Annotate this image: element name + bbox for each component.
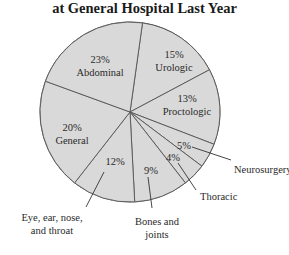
slice-percent-bones-and-joints: 9% xyxy=(144,165,158,176)
slice-percent-general: 20% xyxy=(62,122,82,133)
slice-percent-neurosurgery: 5% xyxy=(177,140,191,151)
slice-label-eye-ear-nose-and-throat: Eye, ear, nose, xyxy=(21,212,82,223)
slice-percent-urologic: 15% xyxy=(164,49,184,60)
pie-chart: 15%Urologic13%Proctologic5%Neurosurgery4… xyxy=(0,0,289,255)
slice-percent-thoracic: 4% xyxy=(166,152,180,163)
slice-label-bones-and-joints: Bones and xyxy=(135,216,180,227)
slice-label-bones-and-joints: joints xyxy=(144,229,168,240)
slice-label-proctologic: Proctologic xyxy=(163,106,212,117)
slice-percent-abdominal: 23% xyxy=(90,54,110,65)
slice-label-abdominal: Abdominal xyxy=(76,67,123,78)
slice-percent-eye-ear-nose-and-throat: 12% xyxy=(105,156,125,167)
slice-label-neurosurgery: Neurosurgery xyxy=(234,164,289,175)
slice-label-eye-ear-nose-and-throat: and throat xyxy=(31,225,73,236)
slice-percent-proctologic: 13% xyxy=(177,93,197,104)
slice-label-thoracic: Thoracic xyxy=(200,191,238,202)
slice-label-general: General xyxy=(55,135,88,146)
slice-label-urologic: Urologic xyxy=(155,62,193,73)
